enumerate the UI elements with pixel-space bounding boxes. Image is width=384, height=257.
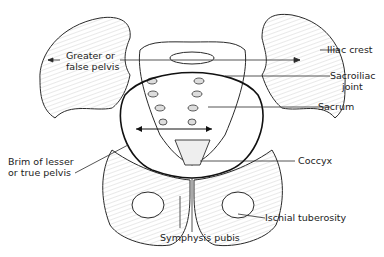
label-sacrum: Sacrum: [318, 101, 354, 112]
label-brim-line2: or true pelvis: [8, 167, 71, 178]
label-ischial-tuberosity: Ischial tuberosity: [265, 212, 346, 223]
label-brim-line1: Brim of lesser: [8, 156, 74, 167]
sacral-promontory: [170, 52, 214, 64]
label-sacroiliac-line1: Sacroiliac: [330, 70, 376, 81]
label-greater-pelvis-line2: false pelvis: [66, 61, 119, 72]
label-sacroiliac-line2: joint: [342, 81, 363, 92]
pelvis-diagram: Greater or false pelvis Iliac crest Sacr…: [0, 0, 384, 257]
label-coccyx: Coccyx: [298, 155, 332, 166]
label-greater-pelvis-line1: Greater or: [66, 50, 115, 61]
label-iliac-crest: Iliac crest: [327, 44, 373, 55]
label-symphysis-pubis: Symphysis pubis: [160, 232, 240, 243]
left-obturator-foramen: [132, 192, 164, 218]
